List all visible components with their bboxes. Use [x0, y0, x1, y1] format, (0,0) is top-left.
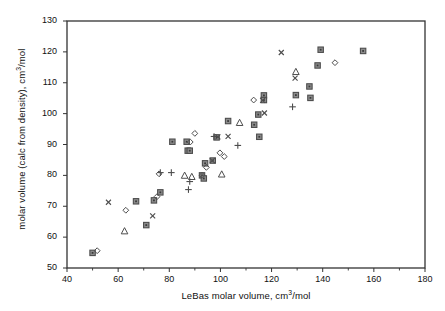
series-bromoalkanes — [94, 60, 338, 254]
data-point — [293, 76, 298, 81]
data-point — [251, 97, 257, 103]
data-point — [192, 130, 198, 136]
data-point — [307, 84, 312, 89]
y-tick-label: 130 — [31, 15, 57, 25]
y-tick-label: 60 — [31, 231, 57, 241]
data-point — [315, 63, 320, 68]
data-point — [156, 171, 162, 177]
x-tick-label: 120 — [257, 274, 287, 284]
plot-frame — [67, 21, 425, 268]
data-point — [170, 139, 175, 144]
data-point — [293, 68, 300, 74]
x-axis-label-pre: LeBas molar volume, cm — [181, 290, 288, 301]
x-tick-label: 160 — [359, 274, 389, 284]
y-tick-label: 90 — [31, 139, 57, 149]
data-point — [318, 47, 323, 52]
data-point — [235, 142, 242, 149]
data-point — [257, 134, 262, 139]
data-point — [225, 118, 230, 123]
data-point — [185, 186, 192, 193]
x-tick-label: 40 — [52, 274, 82, 284]
y-axis-label-pre: molar volume (calc from density), cm — [16, 71, 27, 230]
x-tick-label: 140 — [308, 274, 338, 284]
x-tick-label: 180 — [410, 274, 440, 284]
y-axis-label: molar volume (calc from density), cm3/mo… — [15, 14, 27, 264]
x-tick-label: 100 — [205, 274, 235, 284]
series-chloroalkenes — [157, 104, 296, 193]
plot-canvas — [0, 0, 445, 311]
data-point — [279, 50, 284, 55]
x-axis-label-post: /mol — [292, 290, 310, 301]
data-point — [150, 213, 155, 218]
data-point — [226, 134, 231, 139]
y-tick-label: 70 — [31, 200, 57, 210]
x-tick-label: 80 — [154, 274, 184, 284]
data-point — [168, 169, 175, 176]
y-axis-label-post: /mol — [16, 49, 27, 67]
x-tick-label: 60 — [103, 274, 133, 284]
data-point — [133, 199, 138, 204]
y-tick-label: 100 — [31, 108, 57, 118]
data-point — [123, 207, 129, 213]
series-chloroalkanes — [90, 47, 366, 256]
data-point — [262, 111, 267, 116]
data-point — [289, 104, 296, 111]
data-point — [251, 122, 256, 127]
y-tick-label: 120 — [31, 46, 57, 56]
data-point — [221, 154, 227, 160]
data-point — [181, 172, 188, 178]
scatter-plot-figure: molar volume (calc from density), cm3/mo… — [0, 0, 445, 311]
data-point — [144, 222, 149, 227]
data-point — [308, 95, 313, 100]
y-axis-label-sup: 3 — [15, 67, 22, 71]
data-point — [293, 92, 298, 97]
series-iodoalkanes — [121, 68, 299, 234]
series-mixed halides — [106, 50, 298, 218]
data-point — [217, 150, 223, 156]
y-tick-label: 110 — [31, 77, 57, 87]
y-tick-label: 50 — [31, 262, 57, 272]
data-point — [121, 228, 128, 234]
data-point — [158, 190, 163, 195]
data-point — [256, 112, 261, 117]
data-point — [360, 48, 365, 53]
data-point — [332, 60, 338, 66]
x-axis-label: LeBas molar volume, cm3/mol — [67, 289, 425, 301]
data-point — [236, 119, 243, 125]
data-point — [187, 148, 192, 153]
y-tick-label: 80 — [31, 169, 57, 179]
data-point — [188, 173, 195, 179]
data-point — [218, 171, 225, 177]
data-point — [106, 200, 111, 205]
